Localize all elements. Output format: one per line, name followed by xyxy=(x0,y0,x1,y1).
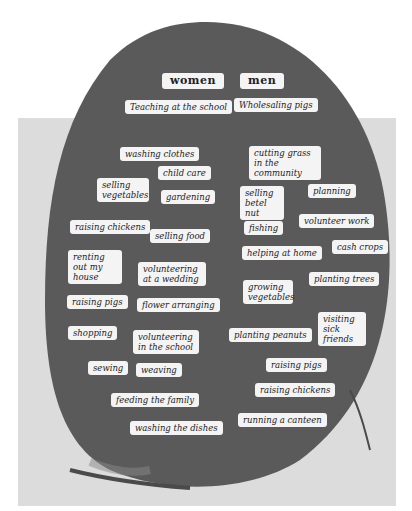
men-task: cutting grass in the community xyxy=(249,146,321,180)
men-task: Wholesaling pigs xyxy=(234,98,318,112)
women-task: weaving xyxy=(136,363,182,377)
header-men: men xyxy=(240,73,284,89)
women-task: raising chickens xyxy=(70,220,150,234)
men-task: raising chickens xyxy=(255,383,335,397)
men-task: growing vegetables xyxy=(243,280,293,304)
men-task: visiting sick friends xyxy=(318,312,366,346)
men-task: selling betel nut xyxy=(240,186,284,220)
men-task: helping at home xyxy=(242,246,322,260)
women-task: volunteering in the school xyxy=(133,330,199,354)
women-task: renting out my house xyxy=(68,250,122,284)
women-task: shopping xyxy=(68,326,117,340)
men-task: raising pigs xyxy=(266,358,327,372)
women-task: flower arranging xyxy=(137,298,220,312)
men-task: planning xyxy=(308,184,356,198)
men-task: planting peanuts xyxy=(229,328,312,342)
women-task: selling food xyxy=(150,229,210,243)
women-task: volunteering at a wedding xyxy=(138,262,206,286)
women-task: washing the dishes xyxy=(130,421,223,435)
header-women: women xyxy=(162,73,224,89)
women-task: raising pigs xyxy=(67,295,128,309)
women-task: sewing xyxy=(88,361,128,375)
men-task: cash crops xyxy=(332,240,388,254)
men-task: planting trees xyxy=(309,272,379,286)
women-task: washing clothes xyxy=(120,147,199,161)
women-task: Teaching at the school xyxy=(125,100,232,114)
women-task: gardening xyxy=(161,190,215,204)
women-task: child care xyxy=(158,166,211,180)
men-task: fishing xyxy=(244,221,283,235)
men-task: volunteer work xyxy=(299,214,374,228)
men-task: running a canteen xyxy=(238,413,327,427)
women-task: feeding the family xyxy=(111,393,199,407)
women-task: selling vegetables xyxy=(97,178,149,202)
